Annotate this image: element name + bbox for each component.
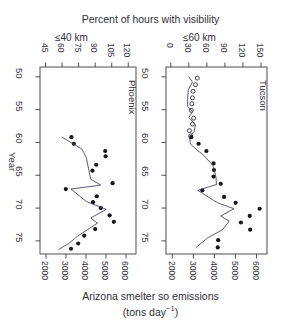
data-point-filled <box>90 169 94 173</box>
data-point-filled <box>76 241 80 245</box>
data-point-filled <box>216 245 220 249</box>
series-line-phoenix <box>59 137 106 249</box>
data-point-filled <box>111 181 115 185</box>
panel-frame-phoenix <box>40 67 136 254</box>
data-point-filled <box>219 182 223 186</box>
data-point-filled <box>211 174 215 178</box>
data-point-open <box>187 129 191 133</box>
data-point-filled <box>104 154 108 158</box>
panel-frame-tucson <box>166 67 267 254</box>
data-point-filled <box>95 194 99 198</box>
data-point-filled <box>239 220 243 224</box>
data-point-filled <box>69 247 73 251</box>
data-point-open <box>190 96 194 100</box>
data-point-filled <box>64 187 68 191</box>
data-point-filled <box>69 135 73 139</box>
data-point-open <box>193 83 197 87</box>
data-point-filled <box>248 228 252 232</box>
data-point-open <box>195 76 199 80</box>
data-point-open <box>191 89 195 93</box>
data-point-filled <box>248 214 252 218</box>
data-point-filled <box>204 149 208 153</box>
data-point-filled <box>94 163 98 167</box>
series-line-tucson <box>188 77 234 248</box>
data-point-filled <box>222 195 226 199</box>
data-point-filled <box>197 142 201 146</box>
data-point-filled <box>258 207 262 211</box>
data-point-filled <box>216 238 220 242</box>
data-point-open <box>190 102 194 106</box>
plot-svg <box>0 0 301 326</box>
data-point-filled <box>82 234 86 238</box>
data-point-filled <box>234 201 238 205</box>
data-point-open <box>192 116 196 120</box>
data-point-filled <box>103 149 107 153</box>
data-point-filled <box>108 213 112 217</box>
data-point-filled <box>112 220 116 224</box>
visibility-emissions-figure: Percent of hours with visibility ≤40 km … <box>0 0 301 326</box>
data-point-filled <box>93 227 97 231</box>
